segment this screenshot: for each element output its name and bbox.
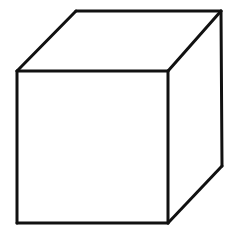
cube-figure xyxy=(0,0,237,239)
back-right-edge xyxy=(221,11,222,166)
drawing-canvas xyxy=(0,0,237,239)
cube-front-face xyxy=(17,71,168,223)
